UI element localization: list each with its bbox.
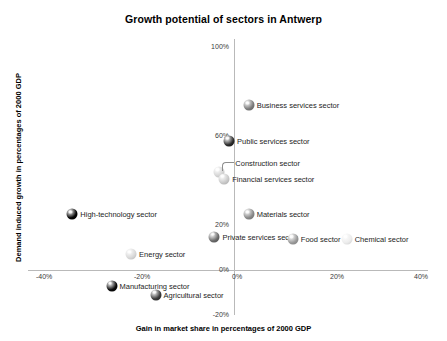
chart-title: Growth potential of sectors in Antwerp	[0, 13, 447, 25]
data-point-label: Food sector	[301, 234, 341, 243]
x-tick-label: -40%	[36, 273, 52, 280]
data-point[interactable]	[219, 173, 230, 184]
data-point-label: Agricultural sector	[164, 290, 224, 299]
data-point[interactable]	[287, 233, 298, 244]
data-point-label: Public services sector	[237, 136, 310, 145]
data-point[interactable]	[243, 209, 254, 220]
data-point[interactable]	[243, 99, 254, 110]
plot-area: -40%-20%0%20%40% 100%60%20%0%-20% Busine…	[28, 36, 428, 314]
scatter-chart: Growth potential of sectors in Antwerp -…	[0, 0, 447, 341]
data-point-label: Construction sector	[235, 158, 300, 167]
data-point[interactable]	[67, 209, 78, 220]
data-point[interactable]	[106, 280, 117, 291]
data-point[interactable]	[126, 249, 137, 260]
x-tick-label: 20%	[330, 273, 344, 280]
data-point[interactable]	[341, 233, 352, 244]
data-point-label: High-technology sector	[80, 210, 157, 219]
data-point-label: Chemical sector	[355, 234, 409, 243]
y-tick-label: -20%	[189, 311, 229, 318]
data-point[interactable]	[150, 289, 161, 300]
x-tick-label: 0%	[232, 273, 242, 280]
data-point-label: Materials sector	[257, 210, 310, 219]
y-tick-label: 0%	[189, 266, 229, 273]
x-tick-label: 40%	[414, 273, 428, 280]
y-tick-label: 20%	[189, 221, 229, 228]
data-point-label: Energy sector	[139, 250, 185, 259]
y-axis-label: Demand induced growth in percentages of …	[14, 67, 23, 267]
data-point-label: Financial services sector	[232, 174, 314, 183]
data-point-label: Business services sector	[257, 100, 340, 109]
x-tick-label: -20%	[134, 273, 150, 280]
data-point[interactable]	[209, 231, 220, 242]
x-axis-label: Gain in market share in percentages of 2…	[0, 324, 447, 333]
leader-line	[222, 162, 234, 171]
data-point[interactable]	[224, 135, 235, 146]
y-tick-label: 100%	[189, 43, 229, 50]
